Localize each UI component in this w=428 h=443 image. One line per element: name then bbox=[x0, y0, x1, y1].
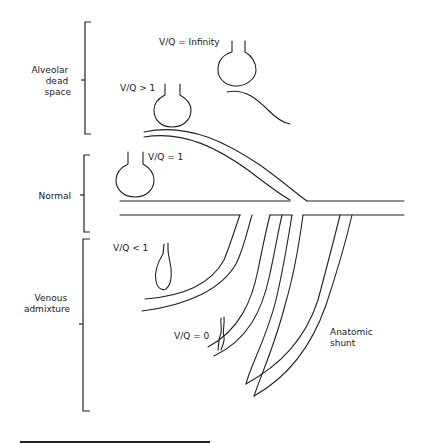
bracket-venous-admixture bbox=[79, 239, 90, 411]
main-vessel bbox=[120, 201, 404, 215]
bracket-dead-space bbox=[81, 22, 91, 134]
anatomic-shunt-vessel bbox=[246, 215, 352, 396]
label-vq-less-1: V/Q < 1 bbox=[113, 243, 148, 253]
group-label-dead-space: Alveolar dead space bbox=[31, 65, 71, 97]
alveolus-vq-greater-1 bbox=[154, 84, 191, 127]
shunt-outer-left bbox=[246, 215, 340, 384]
alveolus-vq-less-1 bbox=[155, 243, 171, 290]
group-label-venous-admixture: Venous admixture bbox=[24, 293, 71, 314]
capillary-vq-0 bbox=[208, 215, 282, 356]
capillary-obstructed bbox=[227, 91, 290, 124]
alveolus-vq-infinity bbox=[218, 41, 290, 124]
vq-diagram: Alveolar dead space Normal Venous admixt… bbox=[0, 0, 428, 443]
label-vq-0: V/Q = 0 bbox=[174, 331, 210, 341]
group-label-normal: Normal bbox=[38, 191, 71, 201]
label-vq-infinity: V/Q = Infinity bbox=[159, 37, 220, 47]
bracket-normal bbox=[80, 155, 90, 232]
label-vq-greater-1: V/Q > 1 bbox=[120, 83, 155, 93]
capillary-upper bbox=[144, 130, 307, 201]
label-anatomic-shunt: Anatomic shunt bbox=[330, 327, 376, 348]
label-vq-1: V/Q = 1 bbox=[148, 152, 183, 162]
alveolus-vq-0 bbox=[218, 317, 224, 350]
